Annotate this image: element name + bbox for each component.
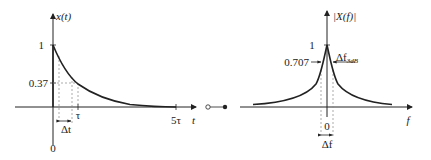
right-origin-label: 0 xyxy=(324,120,330,132)
right-y-tick-0707: 0.707 xyxy=(284,56,309,68)
left-x-tick-5tau: 5τ xyxy=(171,114,182,126)
diagram-canvas: x(t) t 1 0.37 0 τ 5τ Δt |X(f) xyxy=(0,0,431,160)
left-x-tick-tau: τ xyxy=(76,109,81,121)
left-plot: x(t) t 1 0.37 0 τ 5τ Δt xyxy=(15,10,196,154)
left-y-tick-1: 1 xyxy=(39,39,45,51)
left-decay-curve xyxy=(53,45,176,107)
left-y-tick-037: 0.37 xyxy=(29,77,49,89)
right-spectrum-curve xyxy=(253,45,392,105)
left-origin-label: 0 xyxy=(50,142,56,154)
delta-t-label: Δt xyxy=(61,123,71,135)
right-y-tick-1: 1 xyxy=(309,39,315,51)
left-y-axis-label: x(t) xyxy=(55,10,72,23)
right-y-axis-label: |X(f)| xyxy=(333,10,356,23)
left-x-axis-label: t xyxy=(192,114,196,126)
left-dashed-guides xyxy=(53,56,78,124)
right-plot: |X(f)| f 1 0.707 0 Δf3dB Δf xyxy=(240,10,412,150)
transform-pair-connector xyxy=(206,105,227,109)
open-circle-icon xyxy=(206,105,210,109)
filled-circle-icon xyxy=(223,105,227,109)
bandwidth-3db-label: Δf3dB xyxy=(336,51,359,65)
right-x-axis-label: f xyxy=(406,114,411,126)
delta-f-label: Δf xyxy=(322,138,333,150)
